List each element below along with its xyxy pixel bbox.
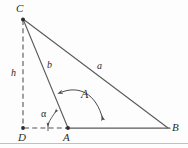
vertex-label-B: B [172, 122, 179, 133]
vertex-dot-D [21, 126, 25, 130]
side-label-b: b [47, 60, 52, 70]
geometry-figure: C D A B a b h A α [0, 0, 188, 148]
angle-label-A: A [81, 88, 88, 100]
vertex-label-D: D [18, 132, 26, 143]
angle-label-alpha: α [41, 109, 46, 119]
vertex-dot-C [21, 18, 25, 22]
figure-canvas [0, 0, 188, 148]
vertex-dot-A [66, 126, 70, 130]
vertex-label-A: A [63, 132, 70, 143]
vertex-label-C: C [16, 3, 23, 14]
angle-alpha-arrow [48, 110, 57, 124]
side-label-h: h [11, 68, 16, 78]
side-label-a: a [97, 61, 102, 71]
